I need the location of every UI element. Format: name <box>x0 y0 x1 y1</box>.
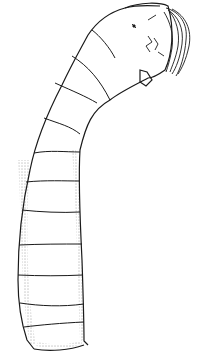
larva-drawing <box>0 0 203 362</box>
body-outline <box>18 3 172 350</box>
stippling-shading <box>18 150 84 348</box>
head-bristles <box>164 8 190 76</box>
head-markings <box>132 15 164 56</box>
larva-illustration: Larva illustration (segmented body, curv… <box>0 0 203 362</box>
